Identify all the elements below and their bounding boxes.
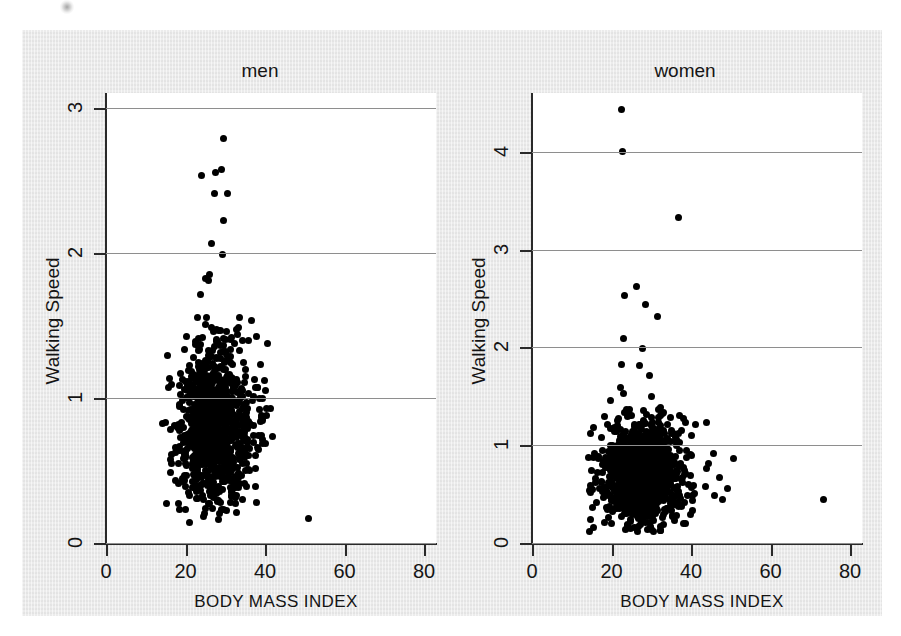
y-tick-label: 0 bbox=[64, 528, 87, 558]
scan-artifact bbox=[60, 0, 74, 14]
gridline bbox=[106, 253, 436, 254]
y-tick bbox=[94, 253, 105, 255]
scatter-point bbox=[197, 291, 204, 298]
scatter-point bbox=[660, 511, 667, 518]
scatter-point bbox=[587, 430, 594, 437]
scatter-point bbox=[186, 492, 193, 499]
scatter-point bbox=[194, 474, 201, 481]
scatter-point bbox=[618, 361, 625, 368]
scatter-point bbox=[205, 277, 212, 284]
scatter-point bbox=[651, 485, 658, 492]
x-tick-label: 80 bbox=[827, 560, 873, 583]
scatter-point bbox=[654, 313, 661, 320]
scatter-point bbox=[229, 454, 236, 461]
y-tick-label: 3 bbox=[490, 234, 513, 264]
y-tick-label: 0 bbox=[490, 528, 513, 558]
scatter-point bbox=[255, 446, 262, 453]
scatter-point bbox=[207, 399, 214, 406]
scatter-point bbox=[242, 366, 249, 373]
scatter-point bbox=[220, 217, 227, 224]
scatter-point bbox=[252, 452, 259, 459]
y-tick-label: 1 bbox=[490, 430, 513, 460]
x-tick bbox=[612, 545, 614, 556]
scatter-point bbox=[636, 464, 643, 471]
scatter-point bbox=[218, 166, 225, 173]
scatter-point bbox=[211, 190, 218, 197]
scatter-point bbox=[687, 472, 694, 479]
scatter-point bbox=[240, 359, 247, 366]
x-tick bbox=[265, 545, 267, 556]
scatter-point bbox=[724, 485, 731, 492]
scatter-point bbox=[172, 444, 179, 451]
y-tick-label: 2 bbox=[490, 332, 513, 362]
y-tick bbox=[520, 543, 531, 545]
scatter-point bbox=[629, 437, 636, 444]
x-tick-label: 0 bbox=[509, 560, 555, 583]
scatter-point bbox=[664, 421, 671, 428]
scatter-point bbox=[710, 450, 717, 457]
scatter-point bbox=[692, 421, 699, 428]
scatter-point bbox=[611, 454, 618, 461]
scatter-point bbox=[626, 502, 633, 509]
scatter-point bbox=[658, 446, 665, 453]
scatter-point bbox=[208, 486, 215, 493]
panel-title-men: men bbox=[175, 60, 345, 82]
scatter-point bbox=[646, 372, 653, 379]
y-axis-label-women: Walking Speed bbox=[468, 246, 490, 396]
x-tick bbox=[106, 545, 108, 556]
scatter-point bbox=[235, 474, 242, 481]
scatter-point bbox=[186, 519, 193, 526]
scatter-point bbox=[622, 526, 629, 533]
scatter-point bbox=[627, 518, 634, 525]
scatter-point bbox=[643, 411, 650, 418]
y-tick bbox=[94, 398, 105, 400]
scatter-point bbox=[675, 214, 682, 221]
scatter-point bbox=[689, 492, 696, 499]
scatter-point bbox=[241, 480, 248, 487]
scatter-point bbox=[616, 496, 623, 503]
scatter-point bbox=[673, 512, 680, 519]
scatter-point bbox=[198, 172, 205, 179]
scatter-point bbox=[168, 460, 175, 467]
scatter-point bbox=[262, 387, 269, 394]
scatter-point bbox=[624, 480, 631, 487]
scatter-point bbox=[163, 500, 170, 507]
scatter-point bbox=[664, 505, 671, 512]
scatter-point bbox=[202, 321, 209, 328]
scatter-point bbox=[679, 474, 686, 481]
scatter-point bbox=[182, 506, 189, 513]
scatter-point bbox=[177, 370, 184, 377]
scatter-point bbox=[641, 506, 648, 513]
scatter-point bbox=[184, 445, 191, 452]
scatter-point bbox=[194, 495, 201, 502]
scatter-point bbox=[680, 520, 687, 527]
scatter-point bbox=[305, 515, 312, 522]
scatter-point bbox=[648, 393, 655, 400]
figure-root: men 0123 020406080 Walking Speed BODY MA… bbox=[0, 0, 901, 636]
scatter-point bbox=[200, 513, 207, 520]
scatter-point bbox=[630, 456, 637, 463]
x-tick-label: 20 bbox=[163, 560, 209, 583]
gridline bbox=[106, 543, 436, 544]
plot-area-women bbox=[532, 93, 862, 543]
scatter-point bbox=[202, 365, 209, 372]
scatter-point bbox=[675, 430, 682, 437]
scatter-point bbox=[234, 428, 241, 435]
scatter-point bbox=[220, 135, 227, 142]
scatter-point bbox=[681, 499, 688, 506]
scatter-point bbox=[250, 422, 257, 429]
scatter-point bbox=[264, 340, 271, 347]
scatter-point bbox=[245, 337, 252, 344]
scatter-point bbox=[638, 454, 645, 461]
x-tick bbox=[186, 545, 188, 556]
scatter-point bbox=[620, 335, 627, 342]
scatter-point bbox=[667, 414, 674, 421]
scatter-point bbox=[703, 465, 710, 472]
plot-area-men bbox=[106, 93, 436, 543]
scatter-point bbox=[687, 511, 694, 518]
scatter-point bbox=[256, 406, 263, 413]
scatter-point bbox=[232, 500, 239, 507]
scatter-point bbox=[200, 411, 207, 418]
scatter-point bbox=[236, 314, 243, 321]
scatter-point bbox=[233, 509, 240, 516]
